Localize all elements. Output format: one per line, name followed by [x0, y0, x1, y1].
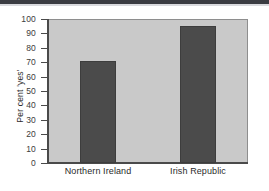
y-axis-tick	[41, 105, 47, 106]
y-axis-tick	[41, 163, 47, 164]
y-axis-title: Per cent 'yes'	[15, 36, 25, 156]
x-axis-line	[47, 162, 248, 164]
bar	[80, 61, 116, 163]
y-axis-tick	[41, 120, 47, 121]
y-axis-tick	[41, 19, 47, 20]
y-axis-tick	[41, 77, 47, 78]
plot-area	[48, 19, 248, 163]
y-axis-line	[47, 19, 49, 164]
y-axis-tick	[41, 91, 47, 92]
y-axis-tick	[41, 33, 47, 34]
y-axis-tick-label: 100	[2, 15, 36, 24]
bar-chart-figure: 0102030405060708090100 Per cent 'yes' No…	[0, 0, 269, 191]
y-axis-tick	[41, 48, 47, 49]
y-axis-tick	[41, 62, 47, 63]
y-axis-tick	[41, 149, 47, 150]
x-axis-category-label: Irish Republic	[138, 167, 258, 177]
y-axis-tick	[41, 134, 47, 135]
y-axis-tick-label: 0	[2, 159, 36, 168]
bar	[180, 26, 216, 163]
